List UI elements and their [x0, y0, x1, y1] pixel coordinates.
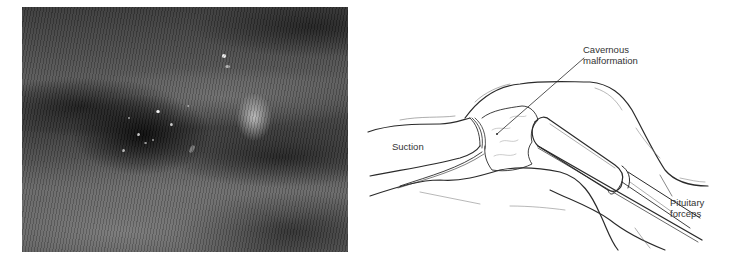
- label-cavernous-malformation: Cavernous malformation: [583, 44, 638, 66]
- highlight-speck: [187, 105, 189, 107]
- highlight-speck: [225, 65, 230, 68]
- label-line: Cavernous: [583, 44, 638, 55]
- label-line: Pituitary: [670, 197, 704, 208]
- illustration-drawing: [360, 0, 737, 264]
- highlight-speck: [137, 133, 140, 136]
- highlight-speck: [188, 145, 195, 154]
- label-line: Suction: [392, 141, 424, 152]
- highlight-speck: [128, 117, 130, 119]
- highlight-speck: [170, 123, 173, 126]
- tissue-dot: [496, 133, 498, 135]
- highlight-speck: [152, 139, 154, 141]
- surgical-illustration: Cavernous malformation Suction Pituitary…: [360, 0, 737, 264]
- label-line: malformation: [583, 55, 638, 66]
- surgical-photo: [22, 7, 348, 252]
- highlight-speck: [144, 142, 147, 144]
- highlight-speck: [156, 110, 160, 113]
- label-suction: Suction: [392, 141, 424, 152]
- label-line: forceps: [670, 208, 704, 219]
- highlight-speck: [222, 54, 226, 58]
- label-pituitary-forceps: Pituitary forceps: [670, 197, 704, 219]
- highlight-speck: [122, 149, 125, 152]
